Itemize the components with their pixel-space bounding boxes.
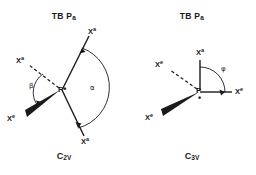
panel-left-caption: C2V — [0, 152, 128, 162]
atom-label-equatorial-lower-left: Xe — [145, 113, 153, 121]
panel-left-title: TB Pa — [0, 12, 128, 22]
atom-label-axial-lower-right: Xa — [81, 137, 89, 145]
bond-equatorial-upper-left-dashed — [170, 70, 197, 89]
atom-superscript: e — [240, 86, 243, 92]
panel-left-title-main: TB P — [52, 11, 73, 21]
atom-label-equatorial-upper-left: Xa — [16, 56, 24, 64]
bond-equatorial-lower-left-wedge — [25, 90, 60, 117]
angle-label-phi: φ — [221, 66, 226, 73]
bond-axial-lower-right — [62, 90, 84, 136]
bond-axial-upper-right — [62, 36, 89, 90]
atom-superscript: a — [86, 136, 89, 142]
atom-label-equatorial-upper-left: Xe — [155, 60, 163, 68]
lone-pair-dot-left: • — [63, 84, 66, 94]
panel-right-title-main: TB P — [180, 11, 201, 21]
panel-left-caption-sub: 2V — [63, 154, 71, 161]
panel-right-caption: C3V — [128, 152, 256, 162]
angle-arrow-phi — [220, 90, 226, 96]
atom-label-equatorial-right: Xe — [235, 87, 243, 95]
angle-label-alpha: α — [90, 85, 95, 92]
figure-canvas: TB Pa P• Xa Xa Xa Xe α β C2V — [0, 0, 256, 175]
atom-label-equatorial-lower-left: Xe — [7, 114, 15, 122]
atom-superscript: a — [93, 26, 96, 32]
atom-label-axial-upper-right: Xa — [88, 27, 96, 35]
bond-equatorial-lower-left-wedge — [161, 92, 199, 116]
atom-superscript: a — [21, 55, 24, 61]
atom-superscript: e — [160, 59, 163, 65]
center-atom-left: P• — [58, 85, 67, 94]
bond-equatorial-upper-left-dashed — [29, 65, 59, 88]
panel-right-title: TB Pa — [128, 12, 256, 22]
panel-left-title-sub: a — [72, 14, 76, 21]
panel-right-caption-sub: 3V — [191, 154, 199, 161]
atom-label-axial-up: Xa — [196, 48, 204, 56]
lone-pair-dot-right: • — [198, 94, 201, 103]
angle-label-beta: β — [29, 83, 33, 90]
atom-superscript: e — [150, 112, 153, 118]
diagram-panel-left: TB Pa P• Xa Xa Xa Xe α β C2V — [0, 0, 128, 175]
atom-superscript: e — [12, 113, 15, 119]
diagram-panel-right: TB Pa P • Xa Xe Xe Xe φ C3V — [128, 0, 256, 175]
atom-superscript: a — [201, 47, 204, 53]
panel-right-title-sub: a — [200, 14, 204, 21]
